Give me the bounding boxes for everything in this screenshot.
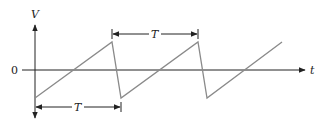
y-axis: V [31,8,40,118]
sawtooth-diagram: V t 0 T T [0,0,324,127]
x-axis-label: t [310,64,315,77]
period-label-bottom: T [74,101,83,114]
period-annotation-bottom: T [36,101,121,114]
period-label-top: T [151,28,160,41]
origin-label: 0 [11,64,18,77]
x-axis: t 0 [11,64,315,77]
y-axis-label: V [31,8,40,21]
period-annotation-top: T [112,28,198,41]
